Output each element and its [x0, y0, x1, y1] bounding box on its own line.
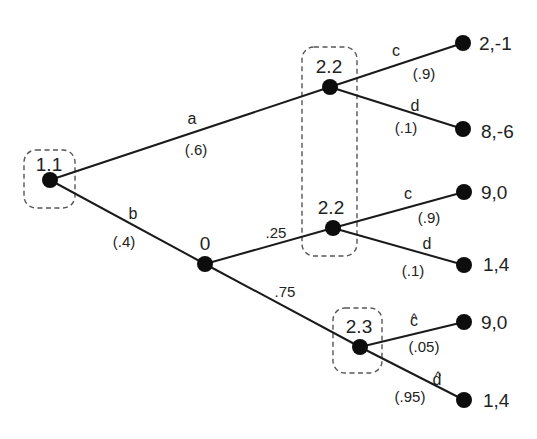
node-label-root: 1.1	[36, 154, 62, 175]
prob-label-bot-d: (.95)	[395, 388, 426, 405]
terminal-node-2	[455, 121, 471, 137]
action-label-top-d: d	[411, 97, 420, 114]
payoff-6: 1,4	[483, 390, 510, 411]
prob-label-chance-up: .25	[266, 224, 287, 241]
node-p2-bottom	[352, 339, 368, 355]
node-label-p2-bottom: 2.3	[346, 316, 372, 337]
node-p2-top	[322, 79, 338, 95]
edge-a	[50, 87, 330, 180]
payoff-4: 1,4	[483, 254, 510, 275]
node-label-chance: 0	[200, 233, 211, 254]
node-label-p2-mid: 2.2	[318, 197, 344, 218]
action-label-b: b	[129, 205, 138, 222]
terminal-node-4	[456, 257, 472, 273]
prob-label-bot-c: (.05)	[409, 338, 440, 355]
terminal-node-6	[456, 392, 472, 408]
terminal-node-1	[455, 35, 471, 51]
payoff-5: 9,0	[481, 312, 507, 333]
prob-label-mid-c: (.9)	[418, 209, 441, 226]
action-label-mid-d: d	[423, 235, 432, 252]
node-p2-mid	[325, 220, 341, 236]
payoff-2: 8,-6	[481, 121, 514, 142]
action-label-top-c: c	[392, 42, 400, 59]
prob-label-mid-d: (.1)	[402, 262, 425, 279]
prob-label-top-c: (.9)	[413, 65, 436, 82]
prob-label-top-d: (.1)	[395, 119, 418, 136]
node-label-p2-top: 2.2	[316, 56, 342, 77]
prob-label-b: (.4)	[113, 233, 136, 250]
prob-label-a: (.6)	[185, 141, 208, 158]
terminal-node-3	[456, 184, 472, 200]
action-label-bot-c: c	[410, 312, 418, 329]
payoff-3: 9,0	[481, 182, 507, 203]
terminal-node-5	[456, 314, 472, 330]
action-label-a: a	[188, 110, 197, 127]
action-label-mid-c: c	[404, 185, 412, 202]
node-chance	[197, 256, 213, 272]
edge-mid-d	[333, 228, 464, 265]
action-label-bot-d: d	[433, 371, 442, 388]
game-tree-diagram: 1.1 0 2.2 2.2 2.3 a (.6) b (.4) .25 .75 …	[0, 0, 537, 439]
prob-label-chance-down: .75	[275, 283, 296, 300]
edge-b	[50, 180, 205, 264]
edge-mid-c	[333, 192, 464, 228]
payoff-1: 2,-1	[479, 33, 512, 54]
edge-chance-down	[205, 264, 360, 347]
